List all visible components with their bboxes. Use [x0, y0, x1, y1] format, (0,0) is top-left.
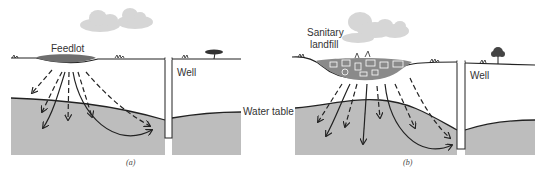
cloud-icon	[80, 8, 153, 32]
well-icon	[165, 57, 172, 138]
feedlot-label: Feedlot	[51, 43, 84, 54]
cloud-icon	[342, 12, 409, 43]
water-table-label: Water table	[243, 106, 294, 117]
pollution-diagram	[0, 0, 545, 178]
groundwater-zone	[295, 100, 457, 155]
caption-b: (b)	[403, 158, 412, 167]
well-icon	[457, 60, 465, 149]
well-label-a: Well	[177, 67, 196, 78]
groundwater-zone	[11, 98, 165, 155]
tree-icon	[491, 47, 505, 64]
sanitary-label: Sanitary	[307, 27, 344, 38]
well-label-b: Well	[470, 70, 489, 81]
tree-icon	[205, 50, 223, 60]
landfill-area	[316, 51, 412, 80]
caption-a: (a)	[126, 158, 135, 167]
landfill-label: landfill	[310, 39, 338, 50]
panel-a	[11, 8, 241, 155]
